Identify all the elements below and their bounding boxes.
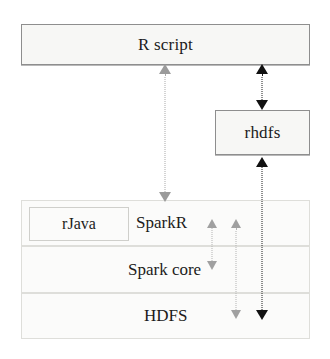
arrowhead-down-icon — [159, 192, 171, 202]
arrowhead-down-icon — [231, 310, 241, 319]
node-rhdfs-label: rhdfs — [245, 123, 281, 143]
node-hdfs-label: HDFS — [144, 306, 187, 326]
arrowhead-up-icon — [256, 64, 268, 74]
dotted-line — [262, 74, 263, 100]
arrowhead-up-icon — [256, 157, 268, 167]
arrowhead-up-icon — [207, 219, 217, 228]
dotted-line — [212, 228, 213, 261]
arrowhead-up-icon — [231, 219, 241, 228]
diagram-canvas: R script rhdfs rJava SparkR Spark core H… — [0, 0, 330, 359]
node-r-script[interactable]: R script — [21, 24, 310, 65]
node-sparkr-label: SparkR — [136, 213, 187, 233]
dotted-line — [262, 167, 263, 310]
arrowhead-down-icon — [256, 310, 268, 320]
node-rjava-label: rJava — [62, 215, 96, 233]
connector-r-script-to-rhdfs — [249, 64, 275, 110]
node-spark-core-label: Spark core — [128, 260, 201, 280]
dotted-line — [165, 74, 166, 192]
node-rjava[interactable]: rJava — [29, 207, 129, 241]
connector-sparkr-to-spark-core — [201, 219, 223, 270]
arrowhead-down-icon — [207, 261, 217, 270]
arrowhead-up-icon — [159, 64, 171, 74]
dotted-line — [236, 228, 237, 310]
connector-sparkr-to-hdfs — [225, 219, 247, 319]
node-rhdfs[interactable]: rhdfs — [215, 110, 310, 155]
node-r-script-label: R script — [138, 35, 193, 55]
connector-rhdfs-to-hdfs — [249, 157, 275, 320]
arrowhead-down-icon — [256, 100, 268, 110]
connector-r-script-to-sparkr — [152, 64, 178, 202]
